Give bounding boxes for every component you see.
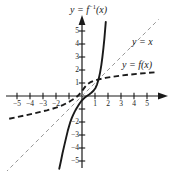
inverse-label-exponent: −1 — [89, 3, 96, 10]
x-tick-label: 5 — [140, 100, 154, 108]
cartesian-plot — [0, 0, 169, 171]
inverse-function-label: y = f−1(x) — [70, 4, 107, 15]
y-tick-label: 4 — [65, 40, 79, 48]
x-tick-label: 2 — [101, 100, 115, 108]
x-tick-label: −3 — [36, 100, 50, 108]
x-tick-label: 4 — [127, 100, 141, 108]
function-label: y = f(x) — [122, 60, 152, 70]
y-tick-label: −5 — [65, 157, 79, 165]
y-tick-label: 5 — [65, 27, 79, 35]
function-label-suffix: (x) — [141, 59, 152, 70]
inverse-label-suffix: (x) — [96, 4, 107, 15]
x-axis-arrow — [158, 93, 168, 100]
figure-inverse-function-graph: y = f−1(x) y = x y = f(x) −5−4−3−212345−… — [0, 0, 169, 171]
identity-line-label: y = x — [132, 37, 153, 47]
x-tick-label: 3 — [114, 100, 128, 108]
x-tick-label: −2 — [49, 100, 63, 108]
x-tick-label: 1 — [88, 100, 102, 108]
x-tick-label: −5 — [10, 100, 24, 108]
y-tick-label: −3 — [65, 131, 79, 139]
y-tick-label: 2 — [65, 66, 79, 74]
y-tick-label: −2 — [65, 118, 79, 126]
function-label-prefix: y = f — [122, 59, 141, 70]
y-tick-label: −4 — [65, 144, 79, 152]
inverse-label-prefix: y = f — [70, 4, 89, 15]
y-tick-label: 3 — [65, 53, 79, 61]
y-tick-label: 1 — [65, 79, 79, 87]
y-axis-arrow — [79, 15, 86, 25]
x-tick-label: −4 — [23, 100, 37, 108]
